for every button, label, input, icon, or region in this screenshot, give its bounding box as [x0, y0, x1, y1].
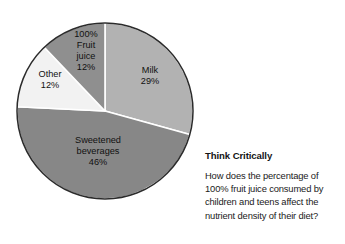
pie-chart-svg: Milk29%Sweetenedbeverages46%Other12%100%… [0, 0, 215, 244]
pie-slice-label-milk: Milk29% [141, 65, 159, 86]
side-panel: Think Critically How does the percentage… [205, 151, 343, 222]
think-critically-heading: Think Critically [205, 151, 343, 162]
think-critically-question: How does the percentage of 100% fruit ju… [205, 169, 343, 222]
pie-slice-label-other: Other12% [39, 69, 62, 90]
pie-slices-group [17, 23, 193, 199]
pie-chart-container: Milk29%Sweetenedbeverages46%Other12%100%… [0, 0, 215, 244]
pie-slice-label-100-fruit-juice: 100%Fruitjuice12% [74, 29, 98, 72]
figure-root: Milk29%Sweetenedbeverages46%Other12%100%… [0, 0, 345, 244]
